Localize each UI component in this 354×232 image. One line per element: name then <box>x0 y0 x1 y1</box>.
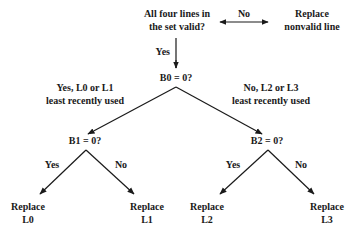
b1-left-arrow <box>40 150 86 194</box>
b2-no-label: No <box>295 159 307 170</box>
lru-decision-tree: All four lines in the set valid? No Repl… <box>0 0 354 232</box>
b2-node: B2 = 0? <box>251 135 283 146</box>
no-edge-label: No <box>238 8 250 19</box>
b2-left-arrow <box>220 150 268 194</box>
b1-yes-label: Yes <box>45 159 60 170</box>
leaf-replace-l3-line1: Replace <box>310 201 344 212</box>
leaf-replace-l1-line2: L1 <box>141 214 153 225</box>
leaf-replace-l2-line2: L2 <box>201 214 213 225</box>
b0-yes-label-line1: Yes, L0 or L1 <box>56 82 113 93</box>
yes-edge-label: Yes <box>156 46 171 57</box>
leaf-replace-l1-line1: Replace <box>130 201 164 212</box>
replace-nonvalid-line1: Replace <box>295 8 329 19</box>
b2-yes-label: Yes <box>226 159 241 170</box>
b0-no-label-line1: No, L2 or L3 <box>244 82 299 93</box>
b0-node: B0 = 0? <box>160 72 192 83</box>
b0-no-label-line2: least recently used <box>232 95 311 106</box>
start-question-line2: the set valid? <box>149 21 205 32</box>
leaf-replace-l0-line1: Replace <box>11 201 45 212</box>
leaf-replace-l2-line1: Replace <box>190 201 224 212</box>
b0-yes-label-line2: least recently used <box>46 95 125 106</box>
b1-no-label: No <box>115 159 127 170</box>
start-question-line1: All four lines in <box>144 8 211 19</box>
replace-nonvalid-line2: nonvalid line <box>284 21 340 32</box>
b1-right-arrow <box>86 150 134 194</box>
b2-right-arrow <box>268 150 314 194</box>
leaf-replace-l0-line2: L0 <box>22 214 34 225</box>
leaf-replace-l3-line2: L3 <box>321 214 333 225</box>
b1-node: B1 = 0? <box>69 135 101 146</box>
